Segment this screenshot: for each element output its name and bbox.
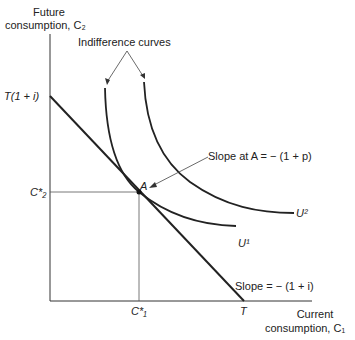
arrow-to-u2 — [127, 51, 143, 76]
x-axis-label-line2: consumption, C₁ — [265, 322, 345, 335]
budget-slope-label: Slope = − (1 + i) — [235, 280, 314, 293]
c1-star-label: C*₁ — [131, 305, 147, 318]
y-axis-label-line2: consumption, C₂ — [5, 19, 86, 32]
x-axis-label-line1: Current — [280, 308, 350, 321]
arrow-to-u1 — [107, 51, 127, 82]
x-intercept-label: T — [240, 305, 247, 318]
arrowhead-a — [149, 182, 157, 188]
u2-label: U² — [296, 207, 308, 220]
intertemporal-choice-diagram: Future consumption, C₂ Indifference curv… — [0, 0, 355, 340]
arrow-to-a — [152, 157, 208, 186]
y-axis-label-line1: Future — [14, 6, 84, 19]
indifference-curves-label: Indifference curves — [78, 36, 171, 49]
u1-label: U¹ — [238, 237, 250, 250]
indifference-curve-u2 — [144, 82, 294, 213]
c2-star-label: C*₂ — [30, 186, 46, 199]
arrowhead-u2 — [140, 73, 145, 79]
y-intercept-label: T(1 + i) — [4, 90, 39, 103]
point-a-label: A — [140, 180, 147, 193]
slope-at-a-label: Slope at A = − (1 + p) — [208, 150, 312, 163]
